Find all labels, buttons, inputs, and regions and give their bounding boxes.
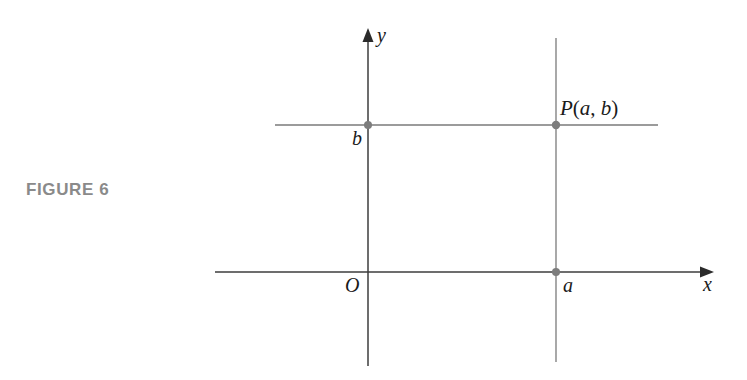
point-p-label: P(a, b) xyxy=(559,96,618,120)
point-p-letter: P xyxy=(559,96,573,120)
marker-dot-a-on-x-axis xyxy=(552,268,560,276)
y-axis-arrowhead-icon xyxy=(363,28,374,42)
y-axis-label: y xyxy=(375,24,386,47)
point-p-close-paren: ) xyxy=(611,96,618,120)
b-coordinate-label: b xyxy=(352,127,362,149)
a-coordinate-label: a xyxy=(563,274,573,296)
point-p-a: a xyxy=(580,96,591,120)
x-axis-label: x xyxy=(702,273,712,295)
coordinate-plane-diagram: y x O b a P(a, b) xyxy=(0,0,747,380)
point-p-open-paren: ( xyxy=(573,96,580,120)
figure-container: FIGURE 6 y x O b a P(a, b) xyxy=(0,0,747,380)
point-p-comma: , xyxy=(590,96,601,120)
marker-dot-point-p xyxy=(552,121,560,129)
marker-dot-b-on-y-axis xyxy=(364,121,372,129)
point-p-b: b xyxy=(601,96,612,120)
origin-label: O xyxy=(345,274,359,296)
